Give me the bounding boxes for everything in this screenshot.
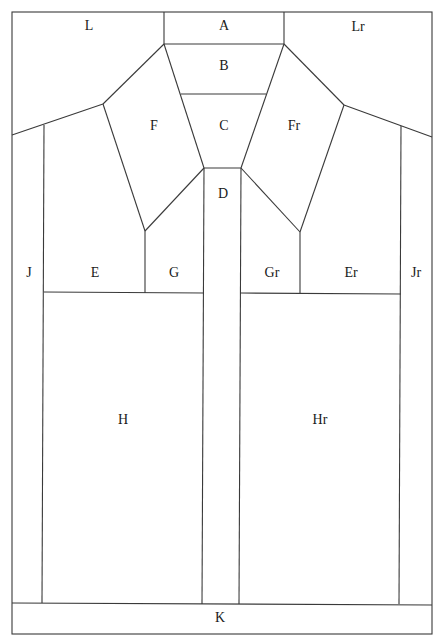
label-D: D	[218, 186, 228, 201]
l-lower-edge-1	[103, 44, 164, 104]
gr-diagonal	[241, 168, 300, 232]
label-K: K	[215, 610, 225, 625]
shirt-pattern-diagram: L A Lr B C F Fr D J E G Gr Er Jr H Hr K	[0, 0, 444, 635]
label-Fr: Fr	[288, 118, 301, 133]
label-Er: Er	[344, 265, 358, 280]
bc-left-edge	[164, 44, 204, 168]
eg-bottom-edge	[44, 292, 204, 293]
f-left-edge	[103, 104, 145, 231]
lr-lower-edge-2	[344, 105, 432, 137]
label-Jr: Jr	[411, 265, 421, 280]
label-Lr: Lr	[351, 19, 365, 34]
label-Gr: Gr	[265, 265, 280, 280]
piece-labels: L A Lr B C F Fr D J E G Gr Er Jr H Hr K	[26, 18, 421, 625]
label-J: J	[26, 265, 32, 280]
j-inner-edge	[42, 125, 44, 603]
label-B: B	[219, 58, 228, 73]
l-lower-edge-2	[12, 104, 103, 135]
lr-lower-edge-1	[284, 44, 344, 105]
fr-right-edge	[300, 105, 344, 232]
grer-bottom-edge	[241, 293, 401, 294]
d-left-edge	[202, 168, 204, 604]
bc-right-edge	[241, 44, 284, 168]
label-Hr: Hr	[313, 412, 328, 427]
label-F: F	[150, 118, 158, 133]
g-diagonal	[145, 168, 204, 231]
label-L: L	[85, 18, 94, 33]
outer-border	[12, 12, 432, 634]
jr-inner-edge	[399, 126, 401, 604]
label-C: C	[219, 118, 228, 133]
label-E: E	[91, 265, 100, 280]
k-top-edge	[12, 603, 432, 605]
label-H: H	[118, 412, 128, 427]
d-right-edge	[239, 168, 241, 604]
label-G: G	[169, 265, 179, 280]
label-A: A	[219, 18, 230, 33]
